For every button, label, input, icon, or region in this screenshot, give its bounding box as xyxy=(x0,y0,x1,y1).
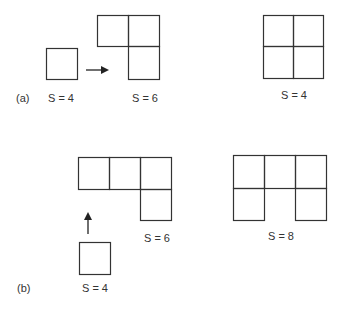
panel-a-tag: (a) xyxy=(16,92,29,104)
a-two-by-two xyxy=(264,16,324,79)
b-single-square xyxy=(80,243,111,275)
panel-b-tag: (b) xyxy=(17,282,30,294)
b-caption-2: S = 6 xyxy=(144,232,170,244)
a-caption-3: S = 4 xyxy=(281,89,307,101)
a-arrow-right-icon xyxy=(86,66,109,74)
diagram-canvas xyxy=(0,0,341,309)
a-single-square xyxy=(47,49,78,80)
b-l-shape xyxy=(79,158,172,221)
b-caption-1: S = 4 xyxy=(82,282,108,294)
b-u-shape xyxy=(234,156,327,221)
b-caption-3: S = 8 xyxy=(268,230,294,242)
a-caption-1: S = 4 xyxy=(48,92,74,104)
a-caption-2: S = 6 xyxy=(132,92,158,104)
b-arrow-up-icon xyxy=(84,212,92,234)
